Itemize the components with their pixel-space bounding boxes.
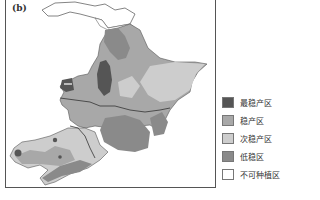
region-most-stable-west	[60, 78, 74, 92]
legend-label: 低稳区	[240, 151, 264, 162]
legend-swatch	[222, 151, 234, 162]
legend-swatch	[222, 97, 234, 108]
region-not-plantable	[42, 2, 135, 28]
legend-label: 稳产区	[240, 115, 264, 126]
legend-item-most-stable: 最稳产区	[222, 93, 289, 111]
legend-label: 不可种植区	[240, 169, 280, 180]
region-sub-stable-east	[140, 62, 205, 102]
legend-label: 最稳产区	[240, 97, 272, 108]
legend: 最稳产区 稳产区 次稳产区 低稳区 不可种植区	[222, 93, 289, 183]
legend-item-stable: 稳产区	[222, 111, 289, 129]
legend-swatch	[222, 133, 234, 144]
legend-item-low-stable: 低稳区	[222, 147, 289, 165]
legend-swatch	[222, 115, 234, 126]
legend-item-not-plantable: 不可种植区	[222, 165, 289, 183]
legend-label: 次稳产区	[240, 133, 272, 144]
legend-item-sub-stable: 次稳产区	[222, 129, 289, 147]
legend-swatch	[222, 169, 234, 180]
